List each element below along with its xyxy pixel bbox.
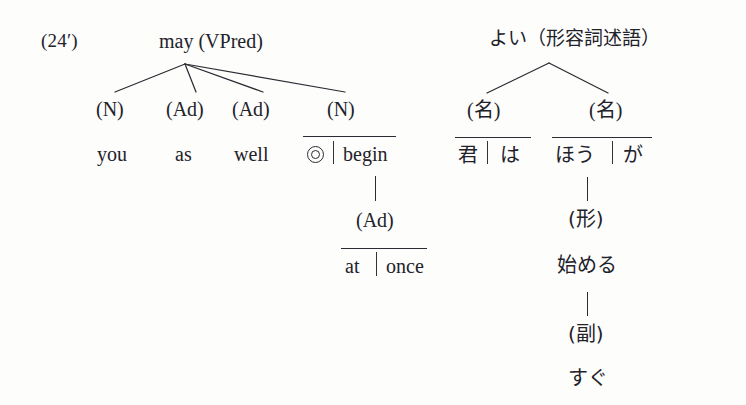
japanese-chain-node-3: (副) <box>568 324 604 344</box>
english-leaf-word-2: as <box>175 144 192 164</box>
japanese-leaf-pair-1-right: は <box>500 145 520 165</box>
bullseye-icon <box>307 146 324 163</box>
japanese-chain-node-4: すぐ <box>568 368 608 388</box>
japanese-leaf-pair-1-left: 君 <box>458 145 478 165</box>
english-subordinate-left-word: at <box>345 256 359 276</box>
japanese-category-node-1: (名) <box>467 100 500 120</box>
english-subordinate-divider <box>376 252 377 276</box>
english-subordinate-right-word: once <box>386 256 424 276</box>
english-boxed-leaf-overline <box>303 136 396 137</box>
english-root-node: may (VPred) <box>159 31 263 51</box>
english-boxed-leaf-divider <box>333 141 334 164</box>
english-category-node-2: (Ad) <box>166 99 204 119</box>
japanese-leaf-pair-1-overline <box>455 137 531 138</box>
figure-number: (24′) <box>41 31 78 50</box>
japanese-leaf-pair-2-overline <box>552 137 652 138</box>
japanese-leaf-pair-2-left: ほう <box>555 145 595 165</box>
english-category-node-4: (N) <box>327 99 355 119</box>
english-category-node-1: (N) <box>96 99 124 119</box>
tree-branch-lines <box>0 0 746 405</box>
english-subordinate-stem <box>375 176 376 201</box>
english-category-node-3: (Ad) <box>232 99 270 119</box>
english-subordinate-category: (Ad) <box>356 210 394 230</box>
figure-canvas: (24′) may (VPred) (N) (Ad) (Ad) (N) you … <box>0 0 746 405</box>
japanese-category-node-2: (名) <box>589 100 622 120</box>
japanese-root-node: よい（形容詞述語） <box>489 29 660 48</box>
japanese-leaf-pair-2-right: が <box>623 145 643 165</box>
japanese-leaf-pair-2-divider <box>612 141 613 164</box>
japanese-chain-stem-1 <box>587 177 588 201</box>
japanese-chain-node-1: (形) <box>568 209 604 229</box>
japanese-chain-stem-2 <box>587 292 588 316</box>
english-leaf-word-3: well <box>234 144 268 164</box>
japanese-chain-node-2: 始める <box>557 255 617 275</box>
english-leaf-word-1: you <box>97 144 127 164</box>
english-subordinate-overline <box>341 248 427 249</box>
english-boxed-leaf-word: begin <box>343 144 387 164</box>
japanese-leaf-pair-1-divider <box>487 141 488 164</box>
